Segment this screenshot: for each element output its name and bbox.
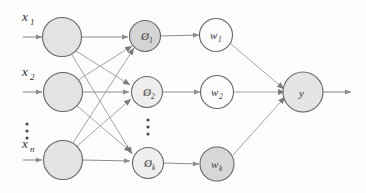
ellipsis-dot: [146, 132, 149, 135]
weight-node-w2-label: w: [211, 86, 219, 98]
diagram-canvas: Ø 1 Ø 2 Ø k w 1 w 2 w k: [0, 0, 366, 193]
edge-x2-phik: [76, 105, 131, 152]
hidden-layer-ellipsis: [146, 118, 149, 135]
output-node-y[interactable]: y: [283, 72, 323, 112]
output-node-y-label: y: [298, 87, 304, 99]
ellipsis-dot: [146, 125, 149, 128]
neural-network-diagram: Ø 1 Ø 2 Ø k w 1 w 2 w k: [0, 0, 366, 193]
input-node-x1-circle[interactable]: [43, 18, 82, 57]
weight-node-w1-label: w: [210, 29, 218, 41]
edge-phi1-w1: [160, 35, 199, 36]
input-node-x1[interactable]: [43, 18, 82, 57]
edge-w1-y: [231, 44, 284, 89]
ellipsis-dot: [25, 122, 28, 125]
edge-phik-wk: [163, 163, 199, 164]
hidden-node-phi1[interactable]: Ø 1: [130, 21, 161, 52]
weight-node-w1-subscript: 1: [218, 35, 222, 44]
edge-x1-phi2: [76, 51, 130, 85]
ellipsis-dot: [25, 136, 28, 139]
hidden-node-phik[interactable]: Ø k: [133, 148, 164, 179]
input-label-x2: x 2: [21, 64, 35, 82]
edge-xn-phik: [82, 160, 130, 161]
hidden-node-phi1-subscript: 1: [149, 36, 153, 45]
hidden-node-phi2[interactable]: Ø 2: [132, 77, 163, 108]
edge-x1-phik: [72, 55, 132, 154]
hidden-node-phi2-subscript: 2: [151, 92, 155, 101]
input-node-xn-circle[interactable]: [44, 141, 83, 180]
input-label-x1: x 1: [21, 9, 35, 27]
weight-node-w2-subscript: 2: [219, 92, 223, 101]
input-layer-ellipsis: [25, 122, 28, 139]
input-label-x1-text: x: [21, 9, 28, 24]
weight-node-w2[interactable]: w 2: [201, 76, 234, 109]
input-label-xn-subscript: n: [30, 144, 35, 154]
ellipsis-dot: [146, 118, 149, 121]
input-label-x2-subscript: 2: [30, 72, 35, 82]
input-node-xn[interactable]: [44, 141, 83, 180]
input-label-x1-subscript: 1: [30, 17, 35, 27]
ellipsis-dot: [25, 129, 28, 132]
weight-node-w1[interactable]: w 1: [200, 19, 233, 52]
weight-node-wk-label: w: [211, 158, 219, 170]
hidden-to-weight-edges: [160, 35, 200, 164]
weight-node-wk[interactable]: w k: [200, 147, 234, 181]
input-label-x2-text: x: [21, 64, 28, 79]
input-node-x2[interactable]: [44, 73, 83, 112]
edge-wk-y: [233, 97, 285, 155]
weight-to-output-edges: [231, 44, 285, 155]
input-node-x2-circle[interactable]: [44, 73, 83, 112]
